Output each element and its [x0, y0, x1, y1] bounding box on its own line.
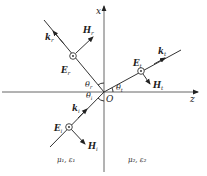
e-r-label: Er: [60, 65, 70, 76]
theta-t-label: θt: [116, 83, 124, 93]
k-r-label: kr: [45, 32, 54, 43]
h-t-arrow-icon: [143, 74, 150, 84]
e-i-out-of-page-icon: [66, 124, 73, 131]
e-r-out-of-page-icon: [70, 53, 77, 60]
e-t-label: Et: [132, 58, 142, 69]
medium-1-label: μ₁, ε₁: [57, 156, 76, 164]
h-i-arrow-icon: [71, 129, 85, 144]
k-i-label: ki: [72, 103, 80, 114]
oblique-incidence-diagram: x z O kr Hr Er kt Ht Et ki Hi E: [0, 0, 207, 176]
k-r-arrow-icon: [53, 31, 64, 44]
h-t-label: Ht: [152, 80, 164, 91]
k-t-label: kt: [158, 46, 167, 57]
origin-label: O: [106, 94, 114, 104]
z-axis-label: z: [189, 94, 195, 104]
k-t-arrow-icon: [154, 58, 165, 64]
theta-r-label: θr: [85, 80, 93, 90]
e-i-label: Ei: [53, 123, 62, 134]
theta-i-label: θi: [86, 91, 93, 101]
x-axis-label: x: [96, 6, 101, 16]
medium-2-label: μ₂, ε₂: [128, 156, 147, 164]
incident-ray: [50, 92, 104, 147]
h-r-arrow-icon: [76, 37, 93, 53]
h-r-label: Hr: [82, 25, 94, 36]
h-i-label: Hi: [87, 141, 98, 152]
reflected-ray: [44, 20, 104, 92]
